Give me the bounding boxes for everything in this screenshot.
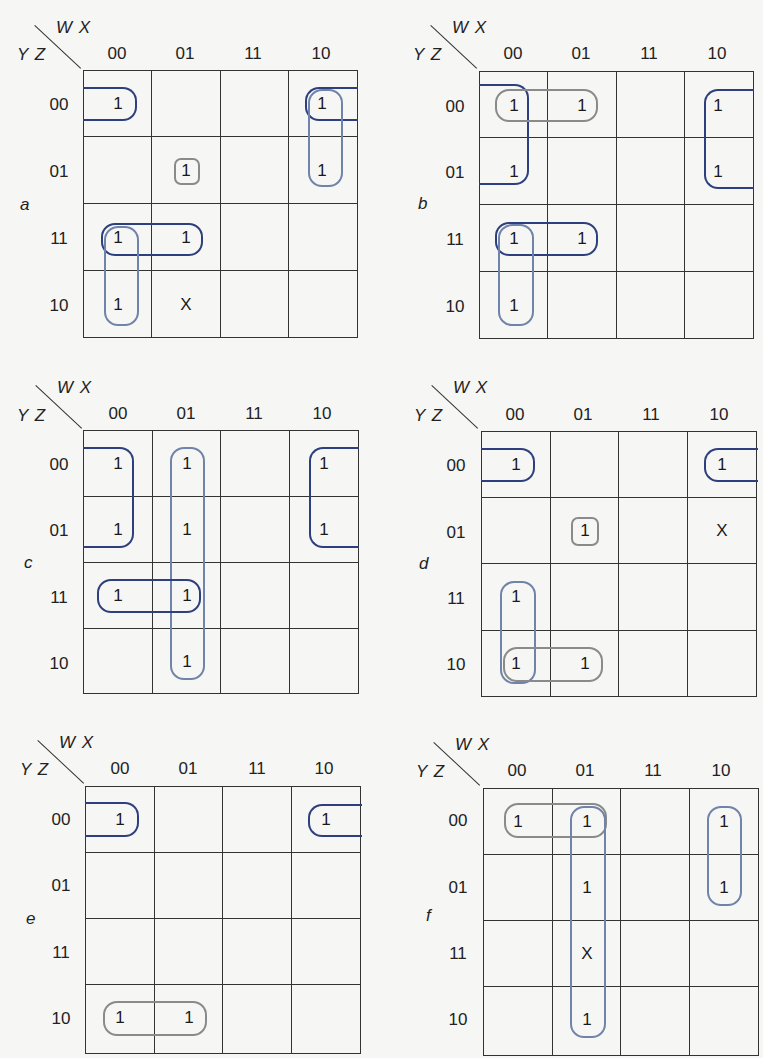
cell-value: 1 (506, 587, 526, 607)
row-label: 01 (44, 521, 74, 541)
col-label: 01 (565, 761, 605, 781)
cell-value: 1 (316, 810, 336, 830)
col-label: 00 (497, 761, 537, 781)
cell-value: 1 (504, 162, 524, 182)
cell-value: 1 (504, 96, 524, 116)
cell-value: 1 (108, 94, 128, 114)
col-label: 10 (304, 759, 344, 779)
cell-value: 1 (177, 652, 197, 672)
map-letter: f (426, 906, 431, 926)
cell-value: X (712, 521, 732, 541)
row-label: 11 (443, 944, 473, 964)
col-variable-label: W X (59, 733, 94, 753)
map-letter: c (24, 553, 33, 573)
row-label: 01 (443, 878, 473, 898)
row-label: 10 (443, 1010, 473, 1030)
cell-value: 1 (504, 229, 524, 249)
kmap-grid: 1 1 1 1 1 1 1 X (83, 70, 358, 338)
cell-value: 1 (575, 654, 595, 674)
row-label: 11 (441, 589, 471, 609)
row-label: 10 (46, 1009, 76, 1029)
cell-value: 1 (108, 586, 128, 606)
cell-value: X (577, 944, 597, 964)
col-label: 00 (98, 404, 138, 424)
row-variable-label: Y Z (416, 762, 445, 782)
kmap-grid: 1 1 1 1 1 1 1 1 (479, 71, 754, 339)
cell-value: 1 (714, 812, 734, 832)
col-label: 01 (563, 405, 603, 425)
cell-value: 1 (572, 229, 592, 249)
kmap-b: W X Y Z 00 01 11 10 00 01 11 10 b 1 1 1 … (396, 1, 763, 341)
row-label: 10 (440, 297, 470, 317)
cell-value: 1 (314, 520, 334, 540)
cell-value: 1 (506, 654, 526, 674)
map-letter: d (419, 554, 428, 574)
cell-value: 1 (179, 1008, 199, 1028)
cell-value: 1 (714, 878, 734, 898)
row-label: 11 (44, 588, 74, 608)
kmap-f: W X Y Z 00 01 11 10 00 01 11 10 f 1 1 1 … (399, 718, 763, 1058)
col-variable-label: W X (57, 378, 92, 398)
col-label: 01 (165, 44, 205, 64)
cell-value: 1 (108, 454, 128, 474)
col-label: 00 (100, 759, 140, 779)
row-label: 10 (441, 655, 471, 675)
kmap-grid: 1 1 1 1 (85, 786, 361, 1054)
cell-value: 1 (508, 812, 528, 832)
row-label: 01 (441, 523, 471, 543)
row-label: 00 (44, 95, 74, 115)
row-label: 00 (440, 97, 470, 117)
cell-value: 1 (108, 228, 128, 248)
map-letter: e (26, 909, 35, 929)
col-label: 00 (97, 44, 137, 64)
cell-value: 1 (177, 454, 197, 474)
col-label: 10 (701, 761, 741, 781)
cell-value: 1 (577, 812, 597, 832)
cell-value: 1 (312, 161, 332, 181)
cell-value: 1 (577, 1010, 597, 1030)
col-label: 10 (302, 404, 342, 424)
cell-value: 1 (110, 1008, 130, 1028)
group-loop (570, 806, 606, 1038)
cell-value: 1 (312, 94, 332, 114)
group-loop (170, 447, 205, 680)
col-label: 01 (561, 44, 601, 64)
col-label: 00 (495, 405, 535, 425)
kmap-e: W X Y Z 00 01 11 10 00 01 11 10 e 1 1 1 … (2, 716, 372, 1056)
cell-value: X (176, 295, 196, 315)
cell-value: 1 (712, 455, 732, 475)
cell-value: 1 (708, 96, 728, 116)
col-label: 11 (234, 404, 274, 424)
row-label: 01 (44, 162, 74, 182)
cell-value: 1 (108, 295, 128, 315)
cell-value: 1 (176, 228, 196, 248)
row-label: 10 (44, 296, 74, 316)
row-label: 00 (44, 455, 74, 475)
row-variable-label: Y Z (17, 45, 46, 65)
cell-value: 1 (575, 521, 595, 541)
col-label: 01 (168, 759, 208, 779)
map-letter: b (418, 194, 427, 214)
row-variable-label: Y Z (20, 760, 49, 780)
col-variable-label: W X (452, 18, 487, 38)
col-variable-label: W X (455, 735, 490, 755)
kmap-c: W X Y Z 00 01 11 10 00 01 11 10 c 1 1 1 … (0, 360, 370, 700)
col-label: 11 (233, 44, 273, 64)
cell-value: 1 (108, 520, 128, 540)
col-label: 11 (633, 761, 673, 781)
row-label: 00 (441, 456, 471, 476)
kmap-d: W X Y Z 00 01 11 10 00 01 11 10 d 1 1 1 … (397, 361, 763, 701)
row-label: 01 (440, 163, 470, 183)
col-label: 00 (493, 44, 533, 64)
row-label: 11 (440, 230, 470, 250)
col-label: 11 (237, 759, 277, 779)
cell-value: 1 (110, 810, 130, 830)
cell-value: 1 (314, 454, 334, 474)
kmap-grid: 1 1 1 1 1 X 1 (483, 788, 759, 1056)
cell-value: 1 (708, 162, 728, 182)
col-label: 11 (629, 44, 669, 64)
kmap-grid: 1 1 1 X 1 1 1 (481, 431, 757, 697)
row-variable-label: Y Z (414, 406, 443, 426)
col-label: 10 (301, 44, 341, 64)
col-label: 10 (699, 405, 739, 425)
